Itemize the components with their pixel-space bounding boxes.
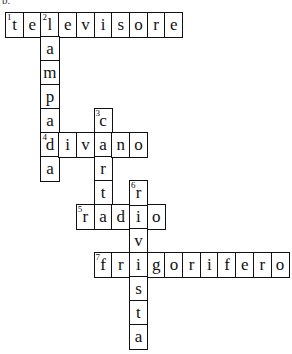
crossword-cell: r [182, 252, 201, 278]
crossword-cell: v [76, 132, 95, 158]
crossword-cell: i [94, 12, 113, 38]
cell-letter: l [48, 16, 53, 33]
clue-number: 2 [42, 13, 47, 22]
cell-letter: e [170, 16, 178, 33]
cell-letter: t [12, 16, 17, 33]
crossword-cell: i [58, 132, 77, 158]
crossword-cell: t [129, 300, 148, 326]
crossword-cell: e [164, 12, 183, 38]
crossword-cell: a [129, 324, 148, 350]
cell-letter: d [46, 136, 55, 153]
cell-letter: a [99, 136, 107, 153]
crossword-cell: p [40, 84, 59, 110]
cell-letter: i [136, 208, 141, 225]
cell-letter: r [100, 160, 106, 177]
crossword-cell: i [129, 252, 148, 278]
cell-letter: o [134, 16, 143, 33]
cell-letter: o [276, 256, 285, 273]
clue-number: 3 [96, 109, 101, 118]
crossword-cell: 3c [94, 108, 113, 134]
cell-letter: v [81, 16, 90, 33]
crossword-cell: e [235, 252, 254, 278]
crossword-cell: s [129, 276, 148, 302]
cell-letter: t [101, 184, 106, 201]
cell-letter: o [152, 208, 161, 225]
crossword-cell: 5r [76, 204, 95, 230]
cell-letter: e [29, 16, 37, 33]
cell-letter: f [100, 256, 106, 273]
crossword-cell: e [58, 12, 77, 38]
crossword-cell: s [111, 12, 130, 38]
cell-letter: d [117, 208, 126, 225]
cell-letter: s [117, 16, 124, 33]
crossword-cell: a [94, 204, 113, 230]
cell-letter: r [83, 208, 89, 225]
cell-letter: a [46, 40, 54, 57]
crossword-cell: m [40, 60, 59, 86]
cell-letter: r [260, 256, 266, 273]
cell-letter: v [134, 232, 143, 249]
crossword-cell: 2l [40, 12, 59, 38]
crossword-cell: o [129, 12, 148, 38]
crossword-grid: 1te2levisoreampa4da3cartaivno5rdio6rvist… [0, 0, 292, 354]
cell-letter: r [189, 256, 195, 273]
cell-letter: r [136, 184, 142, 201]
crossword-cell: d [111, 204, 130, 230]
crossword-cell: o [129, 132, 148, 158]
cell-letter: i [136, 256, 141, 273]
crossword-cell: 7f [94, 252, 113, 278]
crossword-cell: f [217, 252, 236, 278]
crossword-cell: 1t [5, 12, 24, 38]
clue-number: 1 [7, 13, 12, 22]
crossword-cell: 4d [40, 132, 59, 158]
cell-letter: n [117, 136, 126, 153]
cell-letter: o [170, 256, 179, 273]
cell-letter: a [46, 112, 54, 129]
crossword-cell: r [111, 252, 130, 278]
clue-number: 5 [78, 205, 83, 214]
cell-letter: m [43, 64, 56, 81]
clue-number: 4 [42, 133, 47, 142]
crossword-cell: v [129, 228, 148, 254]
cell-letter: g [152, 256, 161, 273]
crossword-cell: v [76, 12, 95, 38]
cell-letter: o [134, 136, 143, 153]
crossword-cell: a [40, 108, 59, 134]
crossword-cell: g [147, 252, 166, 278]
crossword-cell: e [23, 12, 42, 38]
clue-number: 6 [131, 181, 136, 190]
crossword-cell: a [40, 156, 59, 182]
cell-letter: i [207, 256, 212, 273]
crossword-cell: 6r [129, 180, 148, 206]
cell-letter: s [135, 280, 142, 297]
crossword-cell: r [94, 156, 113, 182]
cell-letter: p [46, 88, 55, 105]
crossword-cell: i [200, 252, 219, 278]
cell-letter: f [224, 256, 230, 273]
crossword-cell: r [253, 252, 272, 278]
cell-letter: i [101, 16, 106, 33]
cell-letter: t [136, 304, 141, 321]
cell-letter: c [99, 112, 107, 129]
crossword-cell: n [111, 132, 130, 158]
cell-letter: e [64, 16, 72, 33]
cell-letter: r [153, 16, 159, 33]
cell-letter: r [118, 256, 124, 273]
crossword-cell: i [129, 204, 148, 230]
crossword-cell: a [94, 132, 113, 158]
cell-letter: a [135, 328, 143, 345]
cell-letter: i [65, 136, 70, 153]
crossword-cell: a [40, 36, 59, 62]
cell-letter: e [241, 256, 249, 273]
crossword-cell: o [147, 204, 166, 230]
cell-letter: a [99, 208, 107, 225]
cell-letter: a [46, 160, 54, 177]
cell-letter: v [81, 136, 90, 153]
crossword-cell: o [164, 252, 183, 278]
crossword-cell: r [147, 12, 166, 38]
crossword-cell: o [271, 252, 290, 278]
crossword-cell: t [94, 180, 113, 206]
clue-number: 7 [96, 253, 101, 262]
